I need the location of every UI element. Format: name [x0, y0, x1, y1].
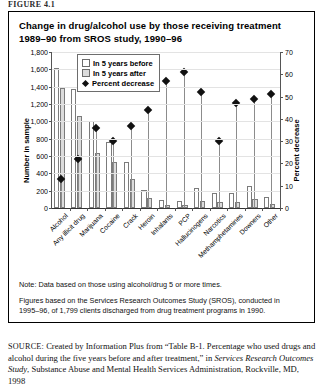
gridline — [52, 104, 280, 105]
percent-decrease-marker — [127, 121, 135, 129]
legend-label-percent-decrease: Percent decrease — [92, 79, 154, 88]
y-tick-label-right: 50 — [285, 93, 293, 100]
y-tick-label-left: 600 — [36, 153, 48, 160]
figure-page: FIGURE 4.1 Change in drug/alcohol use by… — [0, 0, 325, 392]
percent-decrease-stem — [166, 81, 167, 208]
y-tick-label-left: 400 — [36, 170, 48, 177]
y-tick-mark-right — [280, 141, 283, 142]
y-tick-label-right: 70 — [285, 49, 293, 56]
y-tick-label-left: 1,200 — [30, 101, 48, 108]
figure-notes: Note: Data based on those using alcohol/… — [19, 280, 307, 317]
percent-decrease-marker — [267, 90, 275, 98]
percent-decrease-marker — [197, 88, 205, 96]
legend-item-before: In 5 years before — [82, 58, 154, 68]
legend-label-before: In 5 years before — [93, 59, 153, 68]
y-tick-mark-left — [49, 69, 52, 70]
y-tick-label-left: 0 — [44, 205, 48, 212]
percent-decrease-marker — [57, 175, 65, 183]
gridline — [52, 121, 280, 122]
legend-item-after: In 5 years after — [82, 68, 154, 78]
note-line-1: Note: Data based on those using alcohol/… — [19, 280, 307, 291]
y-tick-label-left: 1,400 — [30, 83, 48, 90]
y-tick-label-left: 800 — [36, 135, 48, 142]
y-tick-mark-left — [49, 173, 52, 174]
y-tick-mark-right — [280, 52, 283, 53]
y-tick-label-right: 40 — [285, 115, 293, 122]
gridline — [52, 139, 280, 140]
percent-decrease-marker — [249, 95, 257, 103]
y-tick-label-right: 30 — [285, 138, 293, 145]
gridline — [52, 52, 280, 53]
percent-decrease-stem — [184, 72, 185, 208]
y-tick-mark-right — [280, 163, 283, 164]
source-text-part-2: , Substance Abuse and Mental Health Serv… — [8, 364, 299, 386]
percent-decrease-marker — [144, 106, 152, 114]
figure-box: Change in drug/alcohol use by those rece… — [8, 11, 315, 323]
percent-decrease-stem — [148, 110, 149, 208]
legend-diamond-icon — [82, 79, 89, 86]
y-tick-label-left: 1,800 — [30, 49, 48, 56]
figure-title: Change in drug/alcohol use by those rece… — [19, 20, 307, 45]
figure-title-line-1: Change in drug/alcohol use by those rece… — [19, 20, 307, 33]
chart-legend: In 5 years before In 5 years after Perce… — [77, 54, 160, 92]
y-tick-mark-left — [49, 139, 52, 140]
y-tick-mark-left — [49, 156, 52, 157]
cropped-figure-caption: FIGURE 4.1 — [8, 0, 128, 9]
percent-decrease-marker — [92, 124, 100, 132]
gridline — [52, 173, 280, 174]
y-tick-label-left: 200 — [36, 187, 48, 194]
y-tick-mark-left — [49, 191, 52, 192]
legend-item-percent-decrease: Percent decrease — [82, 78, 154, 88]
y-tick-mark-right — [280, 186, 283, 187]
legend-swatch-after-icon — [82, 69, 90, 77]
percent-decrease-stem — [61, 179, 62, 208]
y-tick-label-right: 20 — [285, 160, 293, 167]
y-tick-mark-left — [49, 52, 52, 53]
x-axis-category-labels: AlcoholAny illicit drugMarijuanaCocaineC… — [51, 212, 281, 278]
note-line-3: 1995–96, of 1,799 clients discharged fro… — [19, 306, 307, 317]
y-tick-mark-left — [49, 104, 52, 105]
legend-swatch-before-icon — [82, 59, 90, 67]
y-axis-title-left: Number in sample — [22, 96, 31, 206]
y-tick-mark-right — [280, 74, 283, 75]
y-tick-label-right: 60 — [285, 71, 293, 78]
y-tick-mark-left — [49, 87, 52, 88]
gridline — [52, 191, 280, 192]
y-tick-label-right: 10 — [285, 182, 293, 189]
figure-title-line-2: 1989–90 from SROS study, 1990–96 — [19, 33, 307, 46]
source-label: SOURCE: — [8, 342, 44, 351]
y-tick-mark-left — [49, 208, 52, 209]
legend-label-after: In 5 years after — [93, 69, 146, 78]
y-tick-mark-left — [49, 121, 52, 122]
figure-source: SOURCE: Created by Information Plus from… — [8, 341, 316, 387]
note-line-2: Figures based on the Services Research O… — [19, 296, 307, 307]
gridline — [52, 156, 280, 157]
y-tick-mark-right — [280, 119, 283, 120]
chart: Number in sample Percent decrease 020040… — [9, 50, 314, 280]
percent-decrease-marker — [162, 77, 170, 85]
y-tick-label-left: 1,600 — [30, 66, 48, 73]
y-tick-mark-right — [280, 97, 283, 98]
y-tick-label-left: 1,000 — [30, 118, 48, 125]
